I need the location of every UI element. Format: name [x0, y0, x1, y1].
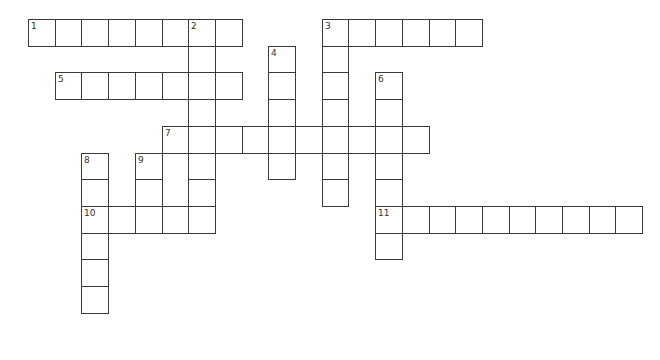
crossword-cell[interactable]: [322, 46, 349, 73]
crossword-cell[interactable]: [215, 19, 243, 47]
clue-number: 1: [31, 21, 37, 31]
crossword-cell[interactable]: [81, 233, 109, 260]
crossword-cell[interactable]: 5: [55, 72, 82, 100]
crossword-cell[interactable]: [615, 206, 643, 234]
crossword-cell[interactable]: [322, 179, 349, 207]
crossword-cell[interactable]: 6: [375, 72, 403, 100]
crossword-cell[interactable]: [322, 126, 349, 154]
crossword-cell[interactable]: [108, 72, 136, 100]
crossword-cell[interactable]: [188, 46, 216, 73]
crossword-cell[interactable]: [535, 206, 563, 234]
crossword-cell[interactable]: [162, 19, 189, 47]
crossword-cell[interactable]: [295, 126, 323, 154]
crossword-cell[interactable]: [188, 153, 216, 180]
crossword-grid: 1234561178109: [0, 0, 660, 360]
clue-number: 5: [58, 74, 64, 84]
crossword-cell[interactable]: [162, 206, 189, 234]
crossword-cell[interactable]: [375, 179, 403, 207]
crossword-cell[interactable]: [268, 72, 296, 100]
crossword-cell[interactable]: [268, 99, 296, 127]
crossword-cell[interactable]: [188, 72, 216, 100]
crossword-cell[interactable]: [375, 153, 403, 180]
crossword-cell[interactable]: 3: [322, 19, 349, 47]
crossword-cell[interactable]: [348, 19, 376, 47]
crossword-cell[interactable]: [348, 126, 376, 154]
crossword-cell[interactable]: 1: [28, 19, 56, 47]
clue-number: 2: [191, 21, 197, 31]
crossword-cell[interactable]: [81, 19, 109, 47]
crossword-cell[interactable]: [162, 72, 189, 100]
crossword-cell[interactable]: [135, 206, 163, 234]
crossword-cell[interactable]: [429, 19, 456, 47]
crossword-cell[interactable]: [482, 206, 510, 234]
crossword-cell[interactable]: 4: [268, 46, 296, 73]
clue-number: 10: [84, 208, 95, 218]
crossword-cell[interactable]: [562, 206, 590, 234]
crossword-cell[interactable]: 8: [81, 153, 109, 180]
clue-number: 6: [378, 74, 384, 84]
crossword-cell[interactable]: [215, 72, 243, 100]
crossword-cell[interactable]: 2: [188, 19, 216, 47]
clue-number: 4: [271, 48, 277, 58]
crossword-cell[interactable]: [375, 126, 403, 154]
crossword-cell[interactable]: 10: [81, 206, 109, 234]
crossword-cell[interactable]: [509, 206, 536, 234]
clue-number: 9: [138, 155, 144, 165]
crossword-cell[interactable]: 7: [162, 126, 189, 154]
clue-number: 3: [325, 21, 331, 31]
crossword-cell[interactable]: [108, 206, 136, 234]
crossword-cell[interactable]: [268, 153, 296, 180]
crossword-cell[interactable]: [402, 19, 430, 47]
clue-number: 7: [165, 128, 171, 138]
crossword-cell[interactable]: [188, 126, 216, 154]
crossword-cell[interactable]: [322, 99, 349, 127]
crossword-cell[interactable]: [55, 19, 82, 47]
clue-number: 11: [378, 208, 389, 218]
crossword-cell[interactable]: [268, 126, 296, 154]
crossword-cell[interactable]: [375, 19, 403, 47]
crossword-cell[interactable]: [215, 126, 243, 154]
crossword-cell[interactable]: [188, 99, 216, 127]
crossword-cell[interactable]: [188, 179, 216, 207]
crossword-cell[interactable]: [81, 179, 109, 207]
crossword-cell[interactable]: [135, 179, 163, 207]
crossword-cell[interactable]: [108, 19, 136, 47]
crossword-cell[interactable]: [135, 19, 163, 47]
crossword-cell[interactable]: [135, 72, 163, 100]
crossword-cell[interactable]: [242, 126, 269, 154]
crossword-cell[interactable]: [322, 72, 349, 100]
crossword-cell[interactable]: [402, 126, 430, 154]
crossword-cell[interactable]: [455, 206, 483, 234]
crossword-cell[interactable]: [455, 19, 483, 47]
crossword-cell[interactable]: [188, 206, 216, 234]
crossword-cell[interactable]: [81, 259, 109, 287]
crossword-cell[interactable]: [402, 206, 430, 234]
crossword-cell[interactable]: [429, 206, 456, 234]
crossword-cell[interactable]: [375, 233, 403, 260]
crossword-cell[interactable]: 11: [375, 206, 403, 234]
crossword-cell[interactable]: [589, 206, 616, 234]
crossword-cell[interactable]: [81, 286, 109, 314]
crossword-cell[interactable]: [322, 153, 349, 180]
crossword-cell[interactable]: 9: [135, 153, 163, 180]
crossword-cell[interactable]: [375, 99, 403, 127]
clue-number: 8: [84, 155, 90, 165]
crossword-cell[interactable]: [81, 72, 109, 100]
